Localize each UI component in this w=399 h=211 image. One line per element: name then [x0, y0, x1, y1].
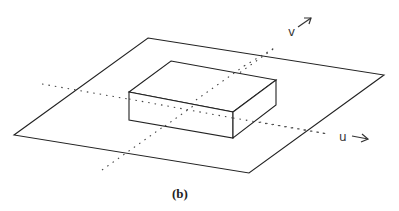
u-arrow-icon — [352, 134, 368, 142]
v-axis-label: v — [288, 25, 295, 39]
v-arrow-icon — [298, 18, 311, 27]
figure-caption: (b) — [172, 186, 188, 201]
u-axis-label: u — [339, 130, 347, 144]
diagram-canvas: u v (b) — [0, 0, 399, 211]
v-axis-dotted-after-box — [244, 47, 276, 66]
